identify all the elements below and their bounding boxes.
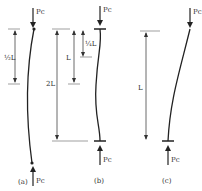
- column-buckling-diagram: Pc Pc ½L (a) 2L Pc Pc: [0, 0, 202, 191]
- load-label-top: Pc: [36, 8, 45, 16]
- load-label-bottom: Pc: [103, 156, 112, 164]
- dimension-label-l: L: [66, 54, 71, 62]
- caption-c: (c): [162, 177, 172, 185]
- dimension-label-2l: 2L: [46, 80, 55, 88]
- load-label-top: Pc: [103, 6, 112, 14]
- panel-b: Pc Pc ¼L L (b): [66, 6, 112, 185]
- dimension-2l: 2L: [46, 29, 88, 141]
- caption-b: (b): [94, 177, 104, 185]
- dimension-label-quarter-l: ¼L: [85, 40, 97, 48]
- column-curve: [27, 29, 34, 163]
- column-curve: [168, 29, 190, 141]
- dimension-label-half-l: ½L: [4, 54, 16, 62]
- panel-a: Pc Pc ½L (a): [4, 8, 45, 186]
- panel-c: Pc Pc L (c): [138, 8, 202, 185]
- load-label-bottom: Pc: [171, 156, 180, 164]
- dimension-label-l: L: [138, 84, 143, 92]
- caption-a: (a): [18, 178, 28, 186]
- load-label-bottom: Pc: [36, 177, 45, 185]
- load-label-top: Pc: [193, 8, 202, 16]
